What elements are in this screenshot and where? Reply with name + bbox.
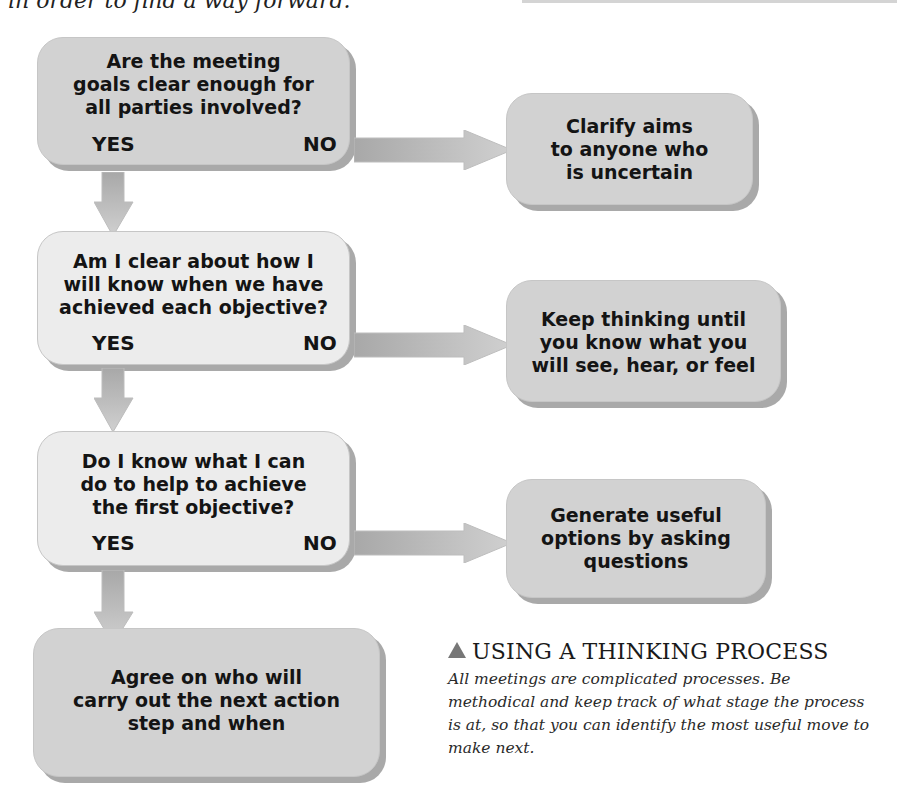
final-step-box: Agree on who will carry out the next act… <box>33 628 380 777</box>
result-2-line-2: you know what you <box>507 331 780 354</box>
result-3-line-2: options by asking <box>507 527 765 550</box>
question-box-1: Are the meeting goals clear enough for a… <box>37 37 350 165</box>
result-box-1: Clarify aims to anyone who is uncertain <box>506 93 753 205</box>
result-box-2: Keep thinking until you know what you wi… <box>506 280 781 402</box>
question-2-no-label: NO <box>303 332 337 354</box>
question-1-line-1: Are the meeting <box>38 50 349 73</box>
result-3-line-1: Generate useful <box>507 504 765 527</box>
question-2-line-2: will know when we have <box>38 273 349 296</box>
question-3-line-1: Do I know what I can <box>38 450 349 473</box>
no-arrow-3 <box>354 523 514 563</box>
question-box-3: Do I know what I can do to help to achie… <box>37 431 350 566</box>
question-1-line-3: all parties involved? <box>38 96 349 119</box>
result-1-line-1: Clarify aims <box>507 115 752 138</box>
yes-arrow-2 <box>94 368 134 434</box>
final-step-line-3: step and when <box>34 712 379 735</box>
result-3-line-3: questions <box>507 550 765 573</box>
final-step-line-2: carry out the next action <box>34 689 379 712</box>
question-2-line-3: achieved each objective? <box>38 296 349 319</box>
caption-body: All meetings are complicated processes. … <box>448 668 878 760</box>
caption-title-text: USING A THINKING PROCESS <box>472 639 829 664</box>
no-arrow-2 <box>354 325 514 365</box>
result-box-3: Generate useful options by asking questi… <box>506 479 766 598</box>
question-box-2: Am I clear about how I will know when we… <box>37 231 350 365</box>
final-step-line-1: Agree on who will <box>34 666 379 689</box>
question-3-yes-label: YES <box>92 532 135 554</box>
question-2-line-1: Am I clear about how I <box>38 250 349 273</box>
question-1-no-label: NO <box>303 133 337 155</box>
question-3-line-2: do to help to achieve <box>38 473 349 496</box>
intro-text: in order to find a way forward. <box>8 0 351 13</box>
question-3-no-label: NO <box>303 532 337 554</box>
question-1-line-2: goals clear enough for <box>38 73 349 96</box>
result-2-line-3: will see, hear, or feel <box>507 354 780 377</box>
question-1-yes-label: YES <box>92 133 135 155</box>
yes-arrow-1 <box>94 172 134 238</box>
result-1-line-3: is uncertain <box>507 161 752 184</box>
question-2-yes-label: YES <box>92 332 135 354</box>
question-3-line-3: the first objective? <box>38 496 349 519</box>
result-2-line-1: Keep thinking until <box>507 308 780 331</box>
no-arrow-1 <box>354 130 514 170</box>
result-1-line-2: to anyone who <box>507 138 752 161</box>
top-rule-divider <box>522 0 897 3</box>
triangle-up-icon <box>448 642 466 658</box>
caption-title: USING A THINKING PROCESS <box>448 639 829 664</box>
